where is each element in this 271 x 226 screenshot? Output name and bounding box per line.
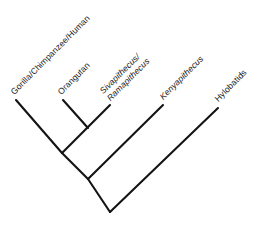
- branch-hylobatids: [110, 108, 218, 212]
- branch-great-apes-stem: [62, 153, 88, 179]
- branch-kenyapithecus-clade-stem: [88, 179, 110, 212]
- branch-orangutan: [63, 100, 88, 128]
- branch-sivapithecus-ramapithecus: [62, 105, 110, 153]
- branch-gorilla-chimpanzee-human: [16, 100, 62, 153]
- phylogenetic-tree-lines: [0, 0, 271, 226]
- cladogram-figure: Gorilla/Chimpanzee/HumanOrangutanSivapit…: [0, 0, 271, 226]
